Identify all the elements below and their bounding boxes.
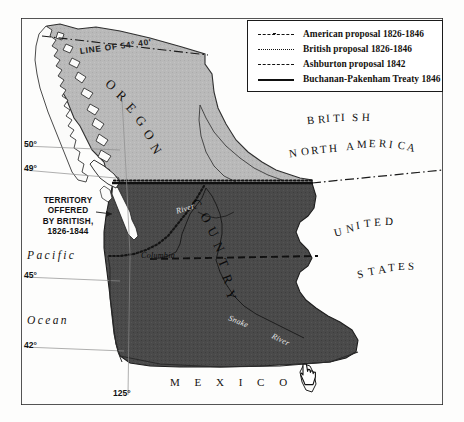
- map-legend: American proposal 1826-1846 British prop…: [247, 20, 443, 92]
- legend-row-ashburton[interactable]: Ashburton proposal 1842: [256, 57, 435, 70]
- latitude-label-50: 50°: [24, 140, 37, 149]
- callout-line-3: BY BRITISH,: [32, 217, 104, 227]
- legend-row-treaty[interactable]: Buchanan-Pakenham Treaty 1846: [256, 72, 435, 85]
- callout-line-2: OFFERED: [32, 206, 104, 216]
- latitude-label-42: 42°: [24, 341, 37, 350]
- dashed-line-icon: [256, 59, 296, 69]
- callout-line-1: TERRITORY: [32, 196, 104, 206]
- legend-label-british: British proposal 1826-1846: [303, 44, 412, 54]
- callout-line-4: 1826-1844: [32, 227, 104, 237]
- legend-row-british[interactable]: British proposal 1826-1846: [256, 42, 435, 55]
- dash-dot-line-icon: [256, 29, 296, 39]
- latitude-label-49: 49°: [24, 164, 37, 173]
- legend-label-ashburton: Ashburton proposal 1842: [303, 59, 406, 69]
- ocean-label: Ocean: [27, 314, 69, 326]
- dotted-line-icon: [256, 44, 296, 54]
- legend-row-american[interactable]: American proposal 1826-1846: [256, 27, 435, 40]
- longitude-label-125: 125°: [113, 389, 131, 398]
- columbia-river-label: Columbia: [141, 252, 175, 260]
- territory-offered-callout: TERRITORY OFFERED BY BRITISH, 1826-1844: [32, 196, 104, 237]
- pacific-label: Pacific: [27, 249, 76, 261]
- legend-label-treaty: Buchanan-Pakenham Treaty 1846: [303, 74, 440, 84]
- solid-line-icon: [256, 74, 296, 84]
- legend-label-american: American proposal 1826-1846: [303, 29, 424, 39]
- historical-map: LINE OF 54° 40' O R E G O N C O U N T R …: [0, 0, 464, 422]
- latitude-label-45: 45°: [24, 271, 37, 280]
- mexico-label: M E X I C O: [170, 377, 293, 389]
